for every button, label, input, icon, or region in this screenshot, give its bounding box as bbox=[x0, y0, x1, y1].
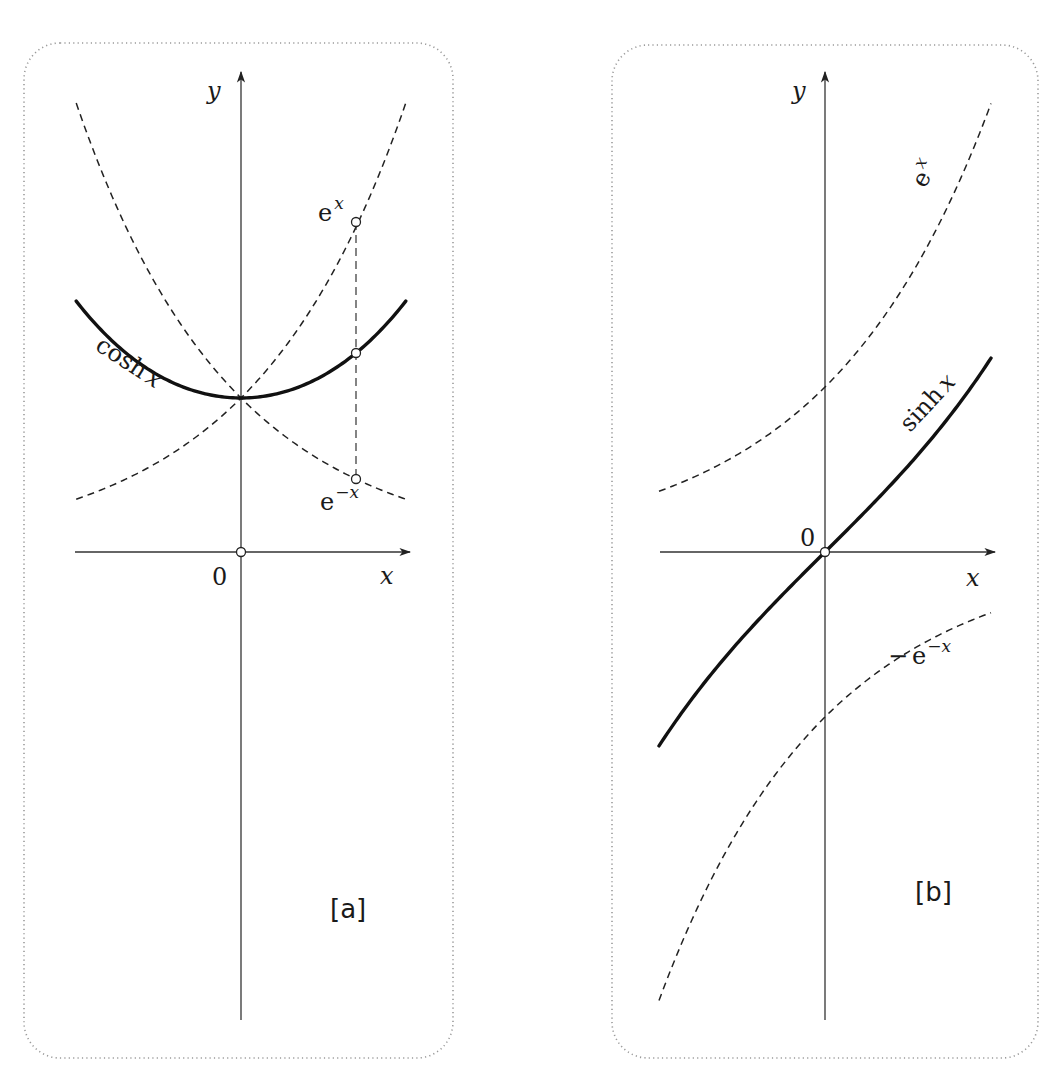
label-e-x: ex bbox=[901, 153, 942, 192]
label-e-neg-x-base: e bbox=[320, 488, 334, 516]
marker-cosh bbox=[352, 349, 361, 358]
label-e-x-exp: x bbox=[334, 193, 344, 213]
label-neg-e-neg-x-base: e bbox=[912, 642, 926, 670]
panel-tag-b: [b] bbox=[915, 877, 952, 907]
panel-b: y x 0 ex −e−x sinhx [b] bbox=[612, 45, 1038, 1058]
x-axis-label: x bbox=[966, 564, 980, 592]
origin-label: 0 bbox=[212, 563, 227, 591]
label-cosh: coshx bbox=[91, 331, 168, 395]
origin-label: 0 bbox=[800, 524, 815, 552]
label-sinh: sinhx bbox=[894, 368, 961, 437]
hyperbolic-functions-figure: y x 0 ex e−x coshx [a] y x 0 ex −e−x bbox=[0, 0, 1049, 1078]
label-e-neg-x-exp: −x bbox=[335, 482, 359, 502]
label-e-x-base: e bbox=[906, 166, 937, 192]
panel-tag-a: [a] bbox=[330, 894, 366, 924]
marker-e-x bbox=[352, 218, 361, 227]
x-axis-label: x bbox=[380, 562, 394, 590]
label-neg-e-neg-x-exp: −x bbox=[927, 636, 951, 656]
origin-marker bbox=[237, 548, 246, 557]
origin-marker bbox=[821, 548, 830, 557]
label-e-x: ex bbox=[318, 193, 344, 227]
label-e-neg-x: e−x bbox=[320, 482, 359, 516]
y-axis-label: y bbox=[791, 77, 806, 105]
label-neg-prefix: − bbox=[888, 642, 908, 670]
label-neg-e-neg-x: −e−x bbox=[888, 636, 952, 670]
label-cosh-main: cosh bbox=[91, 331, 153, 385]
y-axis-label: y bbox=[206, 77, 221, 105]
panel-a: y x 0 ex e−x coshx [a] bbox=[24, 43, 453, 1058]
label-e-x-base: e bbox=[318, 199, 332, 227]
